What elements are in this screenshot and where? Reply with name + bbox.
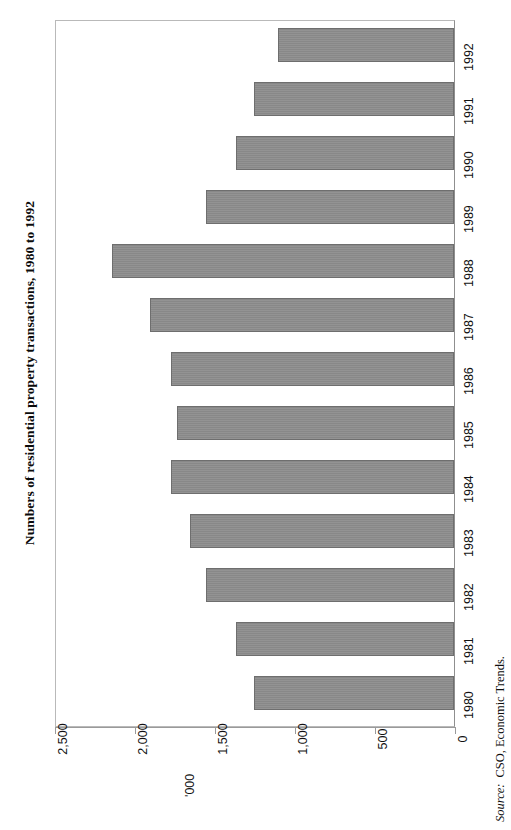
source-note: Source:CSO, Economic Trends.: [493, 656, 508, 822]
category-label-1980: 1980: [462, 691, 476, 719]
value-tick-label: 500: [376, 729, 390, 750]
value-tick: 0: [455, 727, 456, 734]
bar-1983[interactable]: [190, 514, 454, 548]
category-label-1990: 1990: [462, 151, 476, 179]
bar-1987[interactable]: [150, 298, 454, 332]
bar-1988[interactable]: [112, 244, 454, 278]
category-label-1985: 1985: [462, 421, 476, 449]
category-label-1992: 1992: [462, 43, 476, 71]
bar-1986[interactable]: [171, 352, 454, 386]
category-label-1987: 1987: [462, 313, 476, 341]
value-tick: 2,500: [55, 727, 56, 734]
category-label-1986: 1986: [462, 367, 476, 395]
bar-1984[interactable]: [171, 460, 454, 494]
category-label-1983: 1983: [462, 529, 476, 557]
bar-1982[interactable]: [206, 568, 454, 602]
bar-1989[interactable]: [206, 190, 454, 224]
value-tick: 1,000: [295, 727, 296, 734]
category-label-1988: 1988: [462, 259, 476, 287]
bar-1980[interactable]: [254, 676, 454, 710]
value-tick-label: 1,500: [216, 723, 230, 754]
category-label-1984: 1984: [462, 475, 476, 503]
bar-1992[interactable]: [278, 28, 454, 62]
source-text: CSO, Economic Trends.: [493, 656, 507, 778]
value-tick-label: 1,000: [296, 723, 310, 754]
value-tick: 2,000: [135, 727, 136, 734]
plot-area: [55, 20, 455, 727]
source-label: Source:: [493, 784, 507, 822]
value-tick: 500: [375, 727, 376, 734]
bar-1991[interactable]: [254, 82, 454, 116]
bar-1985[interactable]: [177, 406, 454, 440]
value-tick-label: 0: [456, 736, 470, 743]
chart-page: Numbers of residential property transact…: [0, 0, 511, 830]
value-tick: 1,500: [215, 727, 216, 734]
bar-1990[interactable]: [236, 136, 454, 170]
category-label-1981: 1981: [462, 637, 476, 665]
category-label-1982: 1982: [462, 583, 476, 611]
category-label-1991: 1991: [462, 97, 476, 125]
bar-1981[interactable]: [236, 622, 454, 656]
value-axis: 2,500 2,000 1,500 1,000 500 0: [55, 727, 455, 728]
page-title: Numbers of residential property transact…: [22, 43, 38, 703]
category-label-1989: 1989: [462, 205, 476, 233]
value-tick-label: 2,500: [56, 723, 70, 754]
value-axis-label: '000: [183, 774, 197, 797]
value-tick-label: 2,000: [136, 723, 150, 754]
